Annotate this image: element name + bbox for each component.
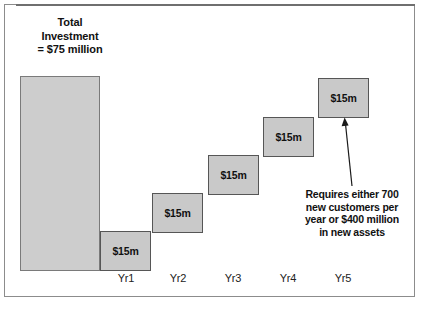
chart-title-line-2: Investment	[10, 30, 130, 44]
axis-label-yr5: Yr5	[317, 272, 369, 284]
annotation-line-4: in new assets	[286, 226, 418, 239]
step-bar-yr3-label: $15m	[220, 169, 246, 181]
chart-title-line-1: Total	[10, 16, 130, 30]
step-bar-yr1-label: $15m	[112, 245, 138, 257]
axis-label-yr4: Yr4	[262, 272, 314, 284]
axis-label-yr1: Yr1	[100, 272, 152, 284]
step-bar-yr1: $15m	[100, 231, 151, 271]
step-bar-yr3: $15m	[208, 155, 259, 195]
step-bar-yr5-label: $15m	[330, 92, 356, 104]
step-bar-yr5: $15m	[318, 78, 369, 118]
annotation-text: Requires either 700 new customers per ye…	[286, 188, 418, 238]
total-investment-bar	[20, 76, 100, 271]
step-bar-yr4-label: $15m	[275, 131, 301, 143]
annotation-line-1: Requires either 700	[286, 188, 418, 201]
chart-title: Total Investment = $75 million	[10, 16, 130, 57]
axis-label-yr2: Yr2	[152, 272, 204, 284]
annotation-line-3: year or $400 million	[286, 213, 418, 226]
annotation-line-2: new customers per	[286, 201, 418, 214]
axis-label-yr3: Yr3	[207, 272, 259, 284]
step-bar-yr2-label: $15m	[164, 207, 190, 219]
step-bar-yr4: $15m	[263, 117, 314, 157]
chart-plot-area: Total Investment = $75 million $15m $15m…	[0, 0, 429, 314]
figure-canvas: Total Investment = $75 million $15m $15m…	[0, 0, 429, 314]
chart-title-line-3: = $75 million	[10, 43, 130, 57]
step-bar-yr2: $15m	[152, 193, 203, 233]
